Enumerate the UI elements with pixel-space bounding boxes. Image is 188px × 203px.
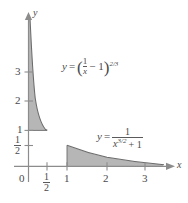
curve-two-denominator: x3/2+ 1 (112, 137, 143, 150)
x-tick-label-2: 2 (103, 173, 109, 184)
y-tick-label-2: 2 (15, 95, 21, 106)
curve-two-equals: = (102, 130, 112, 142)
figure-canvas (0, 0, 188, 203)
x-tick-label-1: 1 (64, 173, 70, 184)
curve-one-exponent: 2/3 (109, 61, 118, 68)
curve-two-denominator-exponent: 3/2 (118, 138, 127, 146)
curve-two-numerator: 1 (112, 126, 143, 137)
y-half-numerator: 1 (14, 135, 21, 145)
y-axis-label: y (33, 8, 37, 18)
curve-two-label: y=1x3/2+ 1 (97, 126, 143, 150)
math-figure: y x 0 3 2 1 1 2 1 2 1 2 3 y=(1x− 1)2/3 y… (0, 0, 188, 203)
x-half-numerator: 1 (43, 172, 50, 182)
curve-one-inner-op: − 1 (87, 60, 103, 72)
y-tick-label-3: 3 (15, 66, 21, 77)
curve-two-fraction: 1x3/2+ 1 (112, 126, 143, 150)
x-axis-arrowhead (166, 163, 175, 170)
x-half-denominator: 2 (43, 182, 50, 193)
x-tick-label-one-half: 1 2 (43, 172, 50, 193)
x-axis-label: x (177, 160, 181, 170)
x-tick-label-3: 3 (142, 173, 148, 184)
y-axis-arrowhead (25, 12, 32, 20)
curve-one-label: y=(1x− 1)2/3 (62, 57, 118, 77)
curve-one-equals: = (67, 60, 77, 72)
y-tick-label-one-half: 1 2 (14, 135, 21, 156)
origin-label: 0 (19, 173, 25, 184)
curve-two-denominator-tail: + 1 (127, 139, 142, 150)
y-half-denominator: 2 (14, 145, 21, 156)
